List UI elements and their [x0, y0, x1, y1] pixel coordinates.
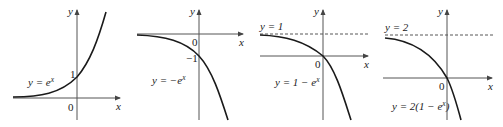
x-axis-label: x: [487, 80, 493, 92]
asymptote-label: y = 1: [259, 20, 283, 32]
curve-exp: [13, 12, 106, 97]
panel-3-one-minus-exp: y x 0 y = 1 y = 1 − ex: [259, 5, 370, 120]
origin-label: 0: [192, 36, 198, 48]
x-axis-label: x: [115, 100, 121, 112]
exponential-transformations-figure: y x 0 1 y = ex y x 0 −1 y = −ex y x 0 y …: [0, 0, 503, 127]
y-axis-label: y: [313, 5, 319, 17]
y-axis-label: y: [189, 5, 195, 17]
intercept-label: 1: [70, 68, 76, 80]
x-axis-label: x: [363, 58, 369, 70]
asymptote-label: y = 2: [384, 21, 409, 33]
panel-2-neg-exp: y x 0 −1 y = −ex: [137, 5, 244, 120]
origin-label: 0: [315, 58, 321, 70]
x-axis-label: x: [238, 36, 244, 48]
y-axis-label: y: [437, 5, 443, 17]
origin-label: 0: [68, 101, 74, 113]
equation-label: y = −ex: [151, 73, 186, 86]
equation-label: y = 1 − ex: [274, 75, 320, 88]
panel-4-two-one-minus-exp: y x 0 y = 2 y = 2(1 − ex): [383, 5, 494, 120]
panel-1-exp: y x 0 1 y = ex: [13, 5, 121, 120]
intercept-label: −1: [186, 52, 198, 64]
equation-label: y = 2(1 − ex): [391, 99, 450, 113]
equation-label: y = ex: [27, 75, 55, 88]
y-axis-label: y: [67, 5, 73, 17]
origin-label: 0: [439, 80, 445, 92]
